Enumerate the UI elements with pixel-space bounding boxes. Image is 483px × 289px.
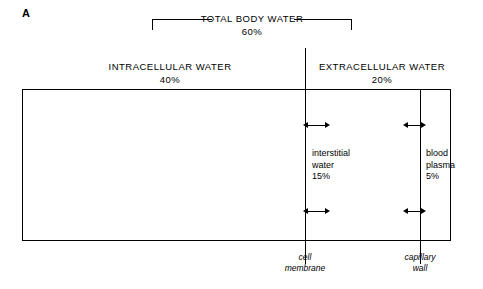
plasma-arrowhead-right-bottom (421, 208, 426, 214)
intracellular-water-title: INTRACELLULAR WATER (40, 61, 300, 74)
blood-plasma-value: 5% (426, 171, 478, 183)
interstitial-arrow-line-top (308, 125, 326, 126)
blood-plasma-title-line2: plasma (426, 160, 478, 172)
extracellular-water-value: 20% (312, 74, 452, 87)
extracellular-water-title: EXTRACELLULAR WATER (312, 61, 452, 74)
capillary-wall-line (420, 89, 421, 264)
cell-membrane-line (305, 48, 306, 264)
interstitial-arrowhead-right-top (325, 122, 330, 128)
cell-membrane-caption-line1: cell (265, 252, 345, 263)
blood-plasma-label: blood plasma 5% (426, 148, 478, 183)
diagram-canvas: A TOTAL BODY WATER 60% INTRACELLULAR WAT… (0, 0, 483, 289)
plasma-arrow-line-top (408, 125, 422, 126)
capillary-wall-caption-line2: wall (380, 263, 460, 274)
panel-letter: A (22, 7, 30, 19)
intracellular-water-value: 40% (40, 74, 300, 87)
interstitial-arrow-line-bottom (308, 211, 326, 212)
blood-plasma-title-line1: blood (426, 148, 478, 160)
total-body-water-label: TOTAL BODY WATER 60% (152, 13, 352, 38)
interstitial-water-value: 15% (312, 171, 416, 183)
interstitial-arrowhead-right-bottom (325, 208, 330, 214)
interstitial-water-title-line1: interstitial (312, 148, 416, 160)
total-body-water-value: 60% (152, 26, 352, 39)
plasma-arrowhead-right-top (421, 122, 426, 128)
cell-membrane-caption-line2: membrane (265, 263, 345, 274)
extracellular-water-label: EXTRACELLULAR WATER 20% (312, 61, 452, 86)
capillary-wall-caption: capillary wall (380, 252, 460, 274)
capillary-wall-caption-line1: capillary (380, 252, 460, 263)
interstitial-water-title-line2: water (312, 160, 416, 172)
plasma-arrow-line-bottom (408, 211, 422, 212)
cell-membrane-caption: cell membrane (265, 252, 345, 274)
intracellular-water-label: INTRACELLULAR WATER 40% (40, 61, 300, 86)
interstitial-water-label: interstitial water 15% (312, 148, 416, 183)
total-body-water-title: TOTAL BODY WATER (152, 13, 352, 26)
